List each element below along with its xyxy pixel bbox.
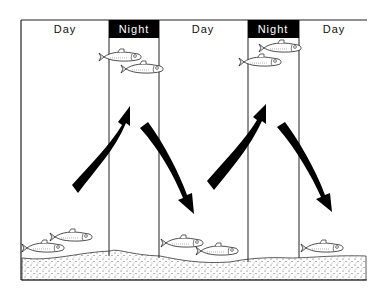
- period-label-day: Day: [323, 23, 346, 35]
- period-label-day: Day: [54, 23, 77, 35]
- fish-icon: [239, 54, 281, 66]
- fish-icon: [50, 229, 92, 241]
- migration-diagram: Day Night Day Night Day: [0, 0, 387, 300]
- fish-icon: [121, 61, 163, 73]
- period-label-day: Day: [192, 23, 215, 35]
- arrow-up-1: [72, 106, 130, 193]
- fish-icon: [259, 40, 301, 52]
- fish-icon: [161, 235, 203, 247]
- fish-icon: [99, 49, 141, 61]
- fish-icon: [301, 240, 343, 252]
- arrow-up-2: [207, 104, 266, 190]
- arrow-down-2: [277, 122, 332, 212]
- period-label-night: Night: [119, 23, 150, 35]
- fish-icon: [22, 240, 64, 252]
- arrow-down-1: [140, 122, 194, 214]
- period-label-night: Night: [258, 23, 289, 35]
- sea-floor: [22, 250, 366, 280]
